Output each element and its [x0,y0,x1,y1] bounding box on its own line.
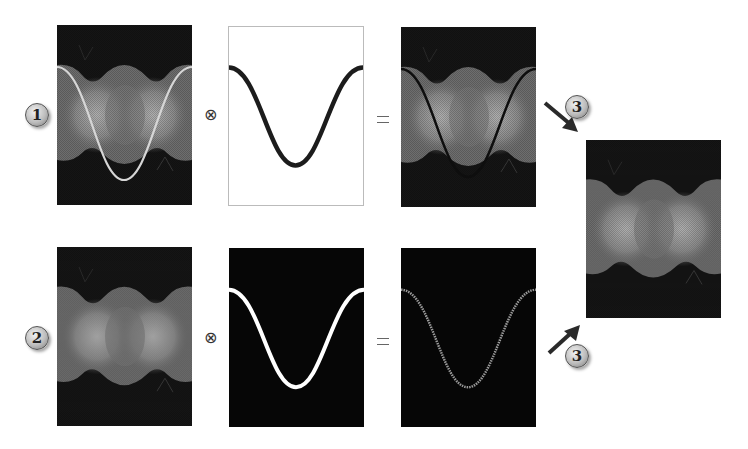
step-3-badge-bottom: 3 [565,344,589,368]
equals-operator-1 [377,116,389,123]
row1-result-panel [401,27,536,207]
step-3-badge-top: 3 [565,95,589,119]
combined-output-panel [586,140,721,318]
step-1-badge: 1 [25,103,49,127]
multiply-operator-1: ⊗ [204,107,217,123]
equals-operator-2 [377,338,389,345]
row2-result-panel [401,248,536,427]
row2-input-panel [57,247,192,426]
step-2-badge: 2 [25,326,49,350]
row1-mask-panel [228,26,364,206]
row1-input-panel [57,25,192,205]
multiply-operator-2: ⊗ [204,330,217,346]
row2-mask-panel [229,248,364,427]
